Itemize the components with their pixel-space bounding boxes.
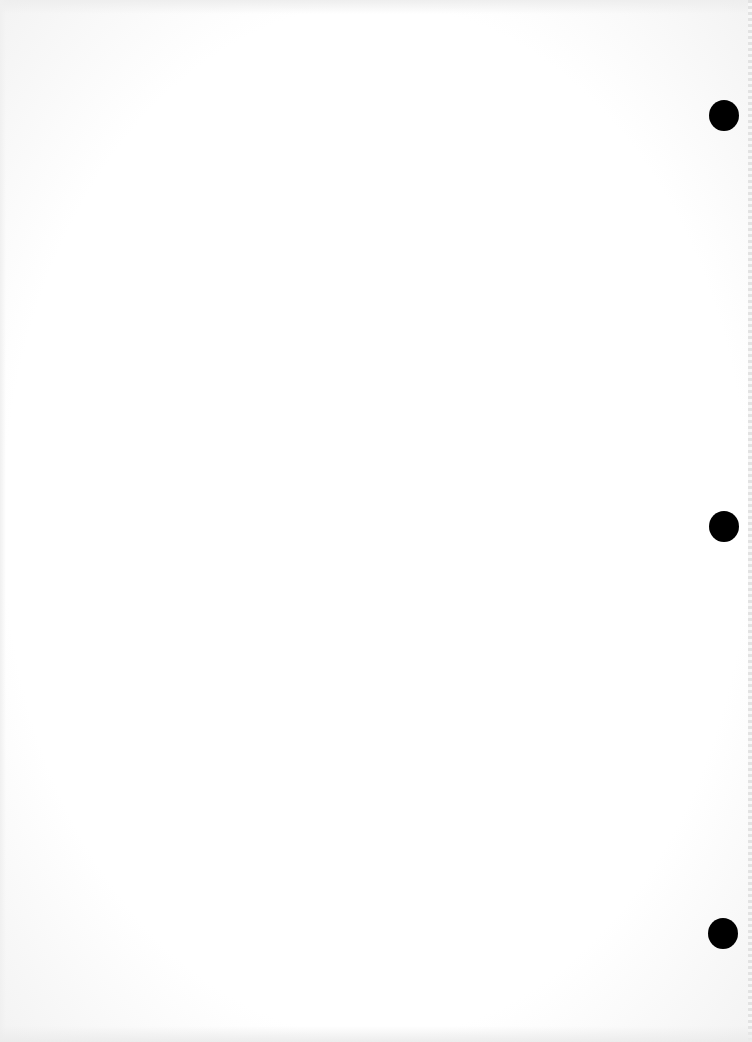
page-left-edge-shadow: [0, 0, 6, 1042]
page-top-edge-shadow: [0, 0, 752, 14]
page-right-edge: [748, 0, 752, 1042]
page-bottom-edge-shadow: [0, 1026, 752, 1042]
punch-hole-top: [709, 100, 739, 131]
punch-hole-bottom: [708, 918, 738, 949]
scanned-page: [0, 0, 752, 1042]
punch-hole-middle: [709, 511, 739, 542]
